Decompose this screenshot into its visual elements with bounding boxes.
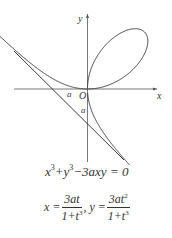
x-numerator: 3at: [62, 193, 81, 208]
x-den-exponent: 3: [79, 209, 83, 217]
eq-term: +y: [55, 164, 70, 179]
eq-term: −3axy = 0: [73, 164, 128, 179]
y-den-base: 1+t: [108, 209, 125, 223]
y-denominator: 1+t3: [108, 208, 129, 222]
y-numerator: 3at2: [107, 193, 130, 208]
y-equals: , y =: [83, 200, 105, 215]
y-axis-label: y: [77, 13, 83, 24]
folium-diagram: y x O a a: [0, 0, 172, 165]
x-denominator: 1+t3: [61, 208, 82, 222]
y-num-exponent: 2: [124, 192, 128, 200]
x-den-base: 1+t: [61, 209, 78, 223]
curve-lower-branch: [88, 93, 153, 165]
x-equals: x =: [44, 200, 60, 215]
cartesian-equation: x3+y3−3axy = 0: [45, 163, 128, 180]
y-den-exponent: 3: [125, 209, 129, 217]
y-fraction: 3at2 1+t3: [107, 193, 130, 222]
curve-loop: [88, 29, 148, 89]
x-axis-label: x: [156, 90, 162, 101]
y-intercept-label: a: [81, 105, 86, 115]
y-num-base: 3at: [109, 192, 124, 206]
x-fraction: 3at 1+t3: [61, 193, 82, 222]
origin-label: O: [79, 90, 86, 101]
asymptote-line: [14, 51, 124, 160]
x-intercept-label: a: [67, 89, 72, 99]
parametric-equations: x = 3at 1+t3 , y = 3at2 1+t3: [44, 193, 131, 222]
